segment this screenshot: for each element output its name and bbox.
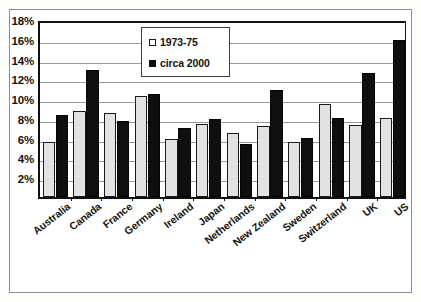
x-label-ireland: Ireland bbox=[161, 200, 195, 230]
y-tick-label: 14% bbox=[0, 55, 34, 67]
bar-us-series-circa-2000 bbox=[393, 40, 405, 197]
bar-new-zealand-series-1973-75 bbox=[257, 126, 269, 197]
bar-sweden-series-circa-2000 bbox=[301, 138, 313, 197]
bar-australia-series-1973-75 bbox=[43, 142, 55, 197]
y-tick-label: 4% bbox=[0, 153, 34, 165]
y-axis: 2%4%6%8%10%12%14%16%18% bbox=[0, 21, 36, 199]
y-tick-label: 10% bbox=[0, 94, 34, 106]
legend-label-0: 1973-75 bbox=[160, 36, 198, 48]
bar-uk-series-circa-2000 bbox=[362, 73, 374, 197]
bar-switzerland-series-1973-75 bbox=[319, 104, 331, 197]
legend-swatch-circa-2000-icon bbox=[149, 60, 156, 67]
y-tick-label: 12% bbox=[0, 74, 34, 86]
bar-sweden-series-1973-75 bbox=[288, 142, 300, 197]
bar-netherlands-series-circa-2000 bbox=[240, 144, 252, 197]
bar-australia-series-circa-2000 bbox=[56, 115, 68, 197]
bar-ireland-series-circa-2000 bbox=[178, 128, 190, 197]
y-tick-label: 18% bbox=[0, 15, 34, 27]
bar-canada-series-1973-75 bbox=[73, 111, 85, 197]
x-axis-category-labels: AustraliaCanadaFranceGermanyIrelandJapan… bbox=[38, 200, 406, 290]
bar-netherlands-series-1973-75 bbox=[227, 133, 239, 197]
bar-germany-series-1973-75 bbox=[135, 96, 147, 197]
bar-france-series-circa-2000 bbox=[117, 121, 129, 197]
chart-figure: 2%4%6%8%10%12%14%16%18% AustraliaCanadaF… bbox=[0, 0, 421, 302]
legend-item-0: 1973-75 bbox=[149, 36, 198, 48]
bar-canada-series-circa-2000 bbox=[86, 70, 98, 197]
chart-legend: 1973-75 circa 2000 bbox=[141, 27, 230, 77]
y-tick-label: 8% bbox=[0, 114, 34, 126]
y-tick-label: 16% bbox=[0, 35, 34, 47]
bar-switzerland-series-circa-2000 bbox=[332, 118, 344, 197]
bar-us-series-1973-75 bbox=[380, 118, 392, 197]
y-tick-label: 2% bbox=[0, 173, 34, 185]
bar-france-series-1973-75 bbox=[104, 113, 116, 197]
bar-japan-series-1973-75 bbox=[196, 124, 208, 197]
bar-uk-series-1973-75 bbox=[349, 125, 361, 197]
legend-swatch-1973-75-icon bbox=[149, 39, 156, 46]
bar-japan-series-circa-2000 bbox=[209, 119, 221, 197]
legend-label-1: circa 2000 bbox=[160, 57, 210, 69]
y-tick-label: 6% bbox=[0, 134, 34, 146]
bar-germany-series-circa-2000 bbox=[148, 94, 160, 197]
bar-ireland-series-1973-75 bbox=[165, 139, 177, 197]
x-label-canada: Canada bbox=[67, 200, 104, 232]
legend-item-1: circa 2000 bbox=[149, 57, 210, 69]
bar-new-zealand-series-circa-2000 bbox=[270, 90, 282, 197]
x-label-uk: UK bbox=[360, 200, 379, 219]
